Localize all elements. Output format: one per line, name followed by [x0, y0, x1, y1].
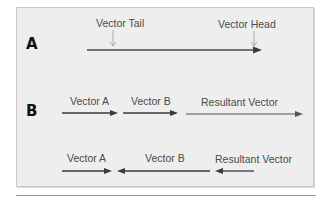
vector-arrows [0, 0, 333, 203]
row1-resultant-arrow [186, 111, 303, 117]
row2-vector-a-arrow [62, 168, 112, 174]
row1-vector-a-arrow [62, 110, 118, 116]
vector-a-arrow [87, 47, 262, 54]
row1-vector-b-arrow [123, 110, 178, 116]
row2-resultant-arrow [215, 168, 254, 174]
tail-pointer-icon [110, 30, 116, 46]
row2-vector-b-arrow [117, 168, 210, 174]
head-pointer-icon [251, 31, 257, 46]
